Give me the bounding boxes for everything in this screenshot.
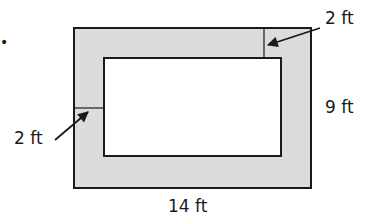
- frame-diagram: [0, 0, 374, 220]
- top-right-width-label: 2 ft: [325, 8, 354, 28]
- height-label: 9 ft: [325, 97, 354, 117]
- left-width-label: 2 ft: [14, 128, 43, 148]
- inner-rectangle: [104, 58, 281, 156]
- length-label: 14 ft: [168, 196, 207, 216]
